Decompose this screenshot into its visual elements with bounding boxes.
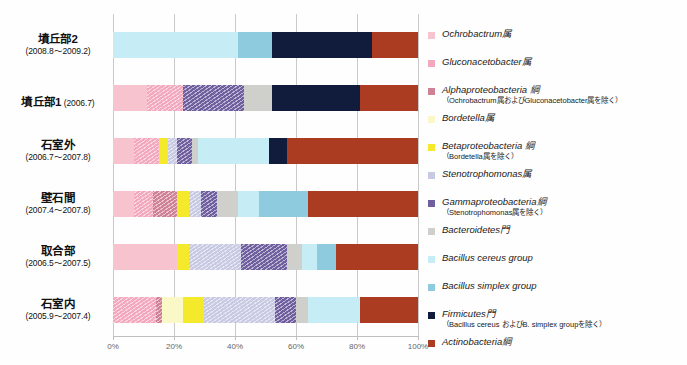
legend-text: Stenotrophomonas属	[442, 169, 532, 180]
bar-row	[113, 191, 418, 217]
bar-segment-stenotrophomonas	[204, 297, 274, 323]
legend-label: Betaproteobacteria 綱	[442, 141, 535, 152]
legend-item-ochrobactrum[interactable]: Ochrobactrum属	[425, 29, 512, 40]
bar-segment-alphaproteobacteria	[153, 191, 177, 217]
bar-segment-ochrobactrum	[113, 244, 177, 270]
x-tick-label-60: 60%	[288, 342, 304, 351]
legend-item-firmicutes[interactable]: Firmicutes門（Bacillus cereus およびB. simple…	[425, 309, 606, 330]
bar-segment-gammaproteobacteria	[177, 138, 192, 164]
legend-swatch-icon	[428, 172, 435, 179]
bar-segment-gluconacetobacter	[147, 85, 184, 111]
x-tick-label-40: 40%	[227, 342, 243, 351]
legend-item-gammaproteobacteria[interactable]: Gammaproteobacteria綱（Stenotrophomonas属を除…	[425, 197, 547, 218]
bar-segment-ochrobactrum	[113, 191, 134, 217]
bar-segment-stenotrophomonas	[168, 138, 177, 164]
legend-text: Alphaproteobacteria 綱（Ochrobactrum属およびGl…	[442, 85, 622, 106]
x-tick-80	[357, 336, 358, 340]
bar-segment-firmicutes	[272, 32, 373, 58]
bar-segment-bacillus_cereus	[302, 244, 317, 270]
x-tick-label-80: 80%	[349, 342, 365, 351]
bar-segment-gluconacetobacter	[134, 138, 158, 164]
bar-segment-ochrobactrum	[113, 138, 134, 164]
legend-swatch-icon	[428, 284, 435, 291]
bar-segment-betaproteobacteria	[159, 138, 168, 164]
legend-swatch-icon	[428, 60, 435, 67]
category-label-2: 墳丘部1(2006.7)	[4, 91, 112, 111]
bar-row	[113, 244, 418, 270]
legend-label: Bacteroidetes門	[442, 225, 510, 236]
bar-segment-actinobacteria	[308, 191, 418, 217]
legend-item-alphaproteobacteria[interactable]: Alphaproteobacteria 綱（Ochrobactrum属およびGl…	[425, 85, 622, 106]
bar-segment-bacteroidetes	[217, 191, 238, 217]
legend-label: Stenotrophomonas属	[442, 169, 532, 180]
legend-swatch-icon	[428, 200, 435, 207]
x-tick-label-0: 0%	[107, 342, 119, 351]
bar-segment-actinobacteria	[336, 244, 418, 270]
legend: Ochrobactrum属Gluconacetobacter属Alphaprot…	[425, 14, 687, 359]
legend-label: Firmicutes門	[442, 309, 606, 320]
bar-segment-gammaproteobacteria	[275, 297, 296, 323]
legend-text: Firmicutes門（Bacillus cereus およびB. simple…	[442, 309, 606, 330]
legend-text: Bordetella属	[442, 113, 495, 124]
legend-text: Bacillus cereus group	[442, 253, 533, 264]
bar-segment-bacillus_simplex	[317, 244, 335, 270]
legend-item-actinobacteria[interactable]: Actinobacteria綱	[425, 337, 512, 348]
x-tick-label-20: 20%	[166, 342, 182, 351]
category-period: (2006.7〜2007.8)	[4, 152, 112, 163]
legend-sublabel: （Bacillus cereus およびB. simplex groupを除く）	[442, 321, 606, 330]
legend-swatch-icon	[428, 88, 435, 95]
legend-label: Gammaproteobacteria綱	[442, 197, 547, 208]
category-period: (2006.7)	[64, 98, 95, 108]
legend-swatch-icon	[428, 340, 435, 347]
bar-segment-bacillus_cereus	[198, 138, 268, 164]
legend-item-gluconacetobacter[interactable]: Gluconacetobacter属	[425, 57, 532, 68]
legend-text: Ochrobactrum属	[442, 29, 512, 40]
bar-segment-betaproteobacteria	[177, 191, 189, 217]
category-name: 取合部	[4, 244, 112, 258]
bar-segment-gammaproteobacteria	[241, 244, 287, 270]
legend-label: Gluconacetobacter属	[442, 57, 532, 68]
legend-item-betaproteobacteria[interactable]: Betaproteobacteria 綱（Bordetella属を除く）	[425, 141, 535, 162]
category-label-6: 石室内(2005.9〜2007.4)	[4, 297, 112, 322]
legend-item-bacillus_cereus[interactable]: Bacillus cereus group	[425, 253, 533, 264]
legend-item-bacteroidetes[interactable]: Bacteroidetes門	[425, 225, 510, 236]
bar-segment-firmicutes	[272, 85, 360, 111]
legend-text: Bacteroidetes門	[442, 225, 510, 236]
bar-segment-actinobacteria	[360, 85, 418, 111]
bar-segment-bacillus_simplex	[238, 32, 272, 58]
category-label-4: 壁石間(2007.4〜2007.8)	[4, 191, 112, 216]
legend-sublabel: （Ochrobactrum属およびGluconacetobacter属を除く）	[442, 97, 622, 106]
legend-text: Actinobacteria綱	[442, 337, 512, 348]
gridline-100	[418, 14, 419, 336]
category-period: (2007.4〜2007.8)	[4, 205, 112, 216]
legend-text: Gluconacetobacter属	[442, 57, 532, 68]
category-label-1: 墳丘部2(2008.8〜2009.2)	[4, 32, 112, 57]
plot-canvas	[113, 14, 418, 336]
bar-row	[113, 138, 418, 164]
bar-row	[113, 85, 418, 111]
bar-segment-bacteroidetes	[296, 297, 308, 323]
bar-segment-gammaproteobacteria	[183, 85, 244, 111]
bar-segment-bacteroidetes	[244, 85, 271, 111]
bar-row	[113, 297, 418, 323]
bar-segment-ochrobactrum	[113, 85, 147, 111]
legend-item-bordetella[interactable]: Bordetella属	[425, 113, 495, 124]
x-tick-60	[296, 336, 297, 340]
legend-label: Alphaproteobacteria 綱	[442, 85, 622, 96]
legend-swatch-icon	[428, 32, 435, 39]
legend-swatch-icon	[428, 256, 435, 263]
legend-label: Bacillus cereus group	[442, 253, 533, 264]
bar-segment-gammaproteobacteria	[201, 191, 216, 217]
bar-segment-bacillus_cereus	[238, 191, 259, 217]
stacked-bar-chart-figure: 墳丘部2(2008.8〜2009.2)墳丘部1(2006.7)石室外(2006.…	[0, 0, 687, 365]
legend-swatch-icon	[428, 116, 435, 123]
legend-item-bacillus_simplex[interactable]: Bacillus simplex group	[425, 281, 537, 292]
category-period: (2005.9〜2007.4)	[4, 311, 112, 322]
legend-sublabel: （Stenotrophomonas属を除く）	[442, 209, 547, 218]
category-name: 墳丘部1	[21, 96, 61, 108]
x-tick-0	[113, 336, 114, 340]
bar-segment-gluconacetobacter	[134, 191, 152, 217]
legend-item-stenotrophomonas[interactable]: Stenotrophomonas属	[425, 169, 532, 180]
bar-segment-bacillus_simplex	[259, 191, 308, 217]
x-axis: 0%20%40%60%80%100%	[113, 336, 418, 362]
